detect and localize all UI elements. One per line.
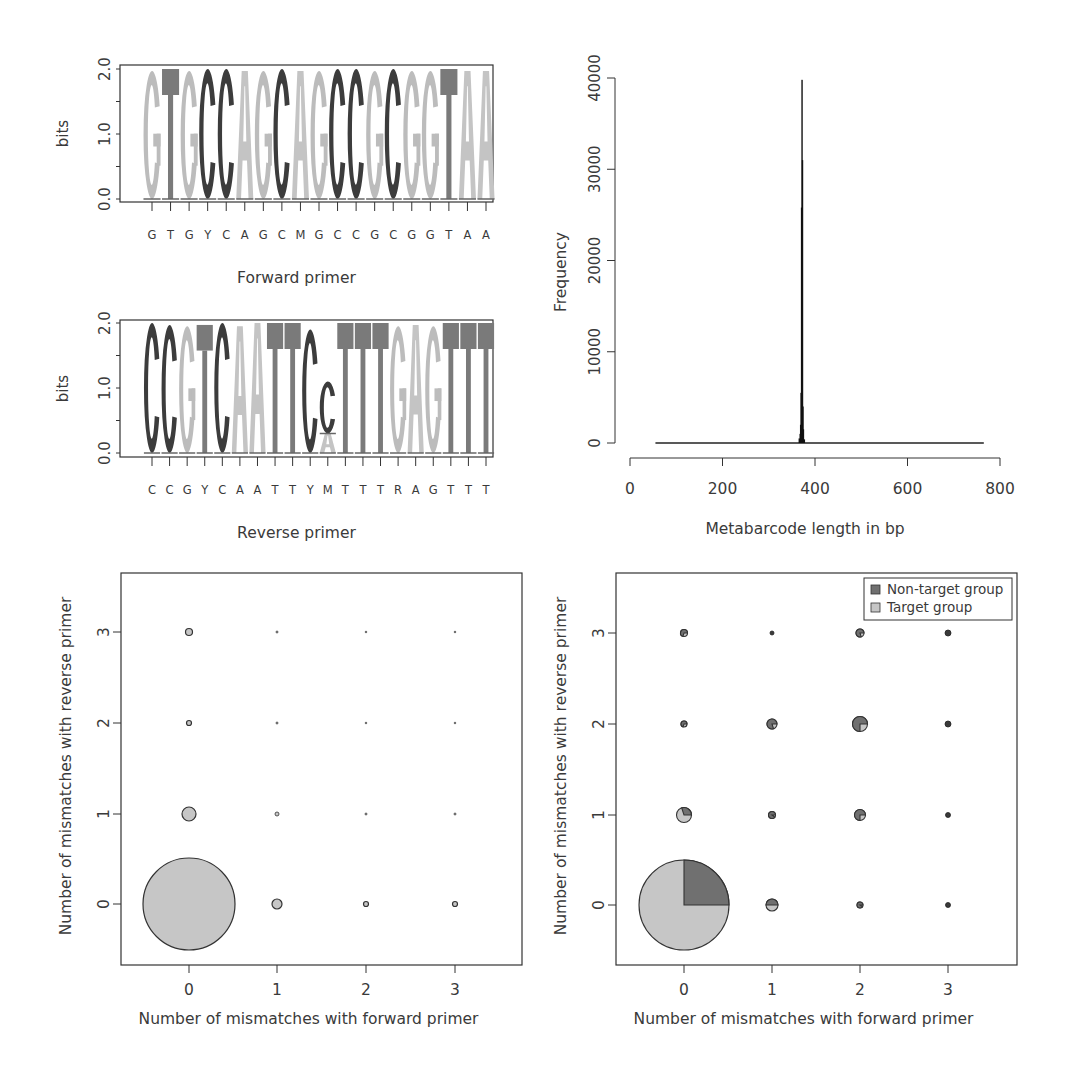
consensus-letter: M bbox=[295, 228, 305, 242]
consensus-letter: Y bbox=[306, 483, 315, 497]
x-axis-label: Number of mismatches with forward primer bbox=[634, 1010, 974, 1028]
logo-letter-C bbox=[302, 330, 317, 454]
logo-letter-T-top bbox=[285, 323, 301, 349]
consensus-letter: G bbox=[148, 228, 157, 242]
logo-letter-C bbox=[218, 69, 234, 199]
logo-letter-C bbox=[320, 381, 335, 433]
legend-label: Non-target group bbox=[887, 581, 1003, 597]
consensus-letter: G bbox=[429, 483, 438, 497]
y-tick-label: 0 bbox=[590, 900, 608, 910]
consensus-letter: A bbox=[254, 483, 262, 497]
histogram-bar bbox=[802, 160, 803, 443]
consensus-letter: A bbox=[412, 483, 420, 497]
x-axis-label: Forward primer bbox=[237, 269, 356, 287]
logo-letter-T-stem bbox=[466, 349, 471, 453]
y-axis-label: bits bbox=[54, 120, 72, 148]
logo-letter-G-spur bbox=[268, 134, 272, 166]
consensus-letter: T bbox=[481, 483, 490, 497]
logo-letter-C bbox=[273, 69, 289, 199]
consensus-letter: G bbox=[259, 228, 268, 242]
consensus-letter: C bbox=[334, 228, 342, 242]
y-tick-label: 2.0 bbox=[96, 311, 114, 335]
consensus-letter: M bbox=[323, 483, 333, 497]
bubble-target bbox=[365, 813, 367, 815]
logo-letter-T-top bbox=[355, 323, 371, 349]
logo-letter-T-stem bbox=[202, 351, 207, 453]
length-histogram: 010000200003000040000Frequency0200400600… bbox=[552, 54, 1015, 538]
bubble-target bbox=[276, 722, 278, 724]
logo-letter-A bbox=[408, 325, 424, 453]
pie-slice-non-target bbox=[766, 899, 778, 905]
y-tick-label: 40000 bbox=[586, 54, 604, 102]
consensus-letter: A bbox=[236, 483, 244, 497]
logo-letter-T-top bbox=[460, 323, 476, 349]
x-tick-label: 0 bbox=[625, 480, 635, 498]
bubble-non-target bbox=[946, 903, 951, 908]
logo-letter-T-top bbox=[197, 325, 213, 351]
logo-letter-G-spur bbox=[379, 134, 383, 166]
x-tick-label: 600 bbox=[893, 480, 923, 498]
logo-letter-G-spur bbox=[435, 134, 439, 166]
pie-slice-non-target bbox=[684, 860, 729, 905]
consensus-letter: A bbox=[241, 228, 249, 242]
bubble-target bbox=[454, 722, 456, 724]
logo-letter-C bbox=[348, 69, 364, 199]
y-tick-label: 2 bbox=[95, 718, 113, 728]
y-tick-label: 1 bbox=[95, 809, 113, 819]
logo-letter-T-stem bbox=[290, 349, 295, 453]
logo-letter-A bbox=[320, 434, 336, 454]
x-axis-label: Reverse primer bbox=[237, 524, 356, 542]
logo-letter-G-spur bbox=[157, 134, 161, 166]
logo-letter-T-top bbox=[478, 323, 494, 349]
x-tick-label: 400 bbox=[800, 480, 830, 498]
consensus-letter: C bbox=[352, 228, 360, 242]
consensus-letter: C bbox=[166, 483, 174, 497]
legend-swatch-non_target bbox=[871, 585, 880, 594]
x-tick-label: 1 bbox=[767, 981, 777, 999]
consensus-letter: T bbox=[271, 483, 280, 497]
bubble-target bbox=[186, 629, 193, 636]
consensus-letter: R bbox=[394, 483, 402, 497]
mismatch-bubble-plot-groups: 01230123Number of mismatches with forwar… bbox=[552, 573, 1017, 1028]
logo-letter-T-stem bbox=[273, 349, 278, 453]
y-tick-label: 2 bbox=[590, 719, 608, 729]
logo-letter-A bbox=[249, 323, 265, 453]
logo-letter-A bbox=[292, 71, 309, 199]
logo-letter-T-top bbox=[267, 323, 283, 349]
consensus-letter: T bbox=[444, 228, 453, 242]
histogram-bar bbox=[804, 439, 805, 443]
logo-letter-G-spur bbox=[438, 388, 442, 420]
logo-letter-T-stem bbox=[361, 349, 366, 453]
forward-primer-logo: 0.01.02.0bitsGTGYCAGCMGCCGCGGTAAForward … bbox=[54, 57, 495, 287]
logo-letter-G-spur bbox=[324, 134, 328, 166]
y-axis-label: Number of mismatches with reverse primer bbox=[57, 596, 75, 935]
bubble-target bbox=[187, 721, 192, 726]
consensus-letter: A bbox=[464, 228, 472, 242]
mismatch-bubble-plot-target: 01230123Number of mismatches with forwar… bbox=[57, 573, 522, 1028]
x-tick-label: 2 bbox=[361, 981, 371, 999]
consensus-letter: T bbox=[341, 483, 350, 497]
logo-letter-G-spur bbox=[194, 134, 198, 166]
logo-letter-T-stem bbox=[343, 349, 348, 453]
logo-letter-C bbox=[214, 323, 229, 453]
x-tick-label: 1 bbox=[272, 981, 282, 999]
consensus-letter: G bbox=[183, 483, 192, 497]
logo-letter-G-spur bbox=[192, 388, 196, 420]
y-tick-label: 20000 bbox=[586, 237, 604, 285]
bubble-non-target bbox=[945, 721, 951, 727]
x-axis-label: Metabarcode length in bp bbox=[705, 520, 904, 538]
bubble-target bbox=[365, 631, 367, 633]
y-tick-label: 0 bbox=[586, 438, 604, 448]
figure-canvas: 0.01.02.0bitsGTGYCAGCMGCCGCGGTAAForward … bbox=[0, 0, 1081, 1070]
logo-letter-T-top bbox=[443, 323, 459, 349]
consensus-letter: G bbox=[407, 228, 416, 242]
x-tick-label: 200 bbox=[708, 480, 738, 498]
consensus-letter: T bbox=[376, 483, 385, 497]
consensus-letter: A bbox=[482, 228, 490, 242]
logo-letter-T-top bbox=[337, 323, 353, 349]
bubble-target bbox=[275, 812, 279, 816]
y-axis-label: Frequency bbox=[552, 232, 570, 312]
bubble-target bbox=[182, 807, 196, 821]
consensus-letter: Y bbox=[200, 483, 209, 497]
x-tick-label: 2 bbox=[855, 981, 865, 999]
